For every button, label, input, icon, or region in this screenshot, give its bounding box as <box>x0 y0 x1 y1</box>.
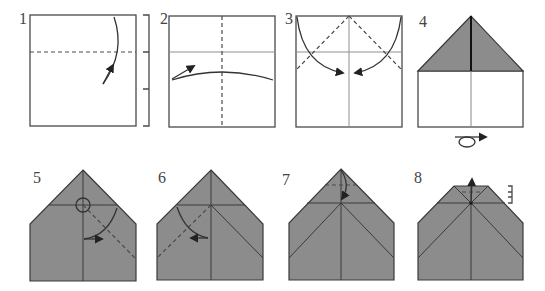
step-2: 2 <box>160 10 275 127</box>
step-4: 4 <box>418 13 523 147</box>
step-1: 1 <box>19 10 149 126</box>
step-number: 7 <box>282 171 290 188</box>
paper-square <box>30 15 136 126</box>
step-number: 6 <box>158 169 166 186</box>
step-5: 5 <box>30 169 136 281</box>
step-number: 3 <box>285 10 293 27</box>
step-number: 4 <box>419 13 427 30</box>
paper-model <box>157 170 263 280</box>
step-3: 3 <box>285 10 402 127</box>
origami-diagram: 1 2 3 4 5 <box>0 0 545 291</box>
step-number: 1 <box>19 10 27 27</box>
turn-over-symbol-icon <box>455 137 486 147</box>
step-6: 6 <box>157 169 263 280</box>
step-number: 5 <box>33 169 41 186</box>
step-7: 7 <box>282 169 394 280</box>
proportion-bracket-icon <box>143 15 149 126</box>
step-number: 2 <box>160 10 168 27</box>
proportion-bracket-icon <box>508 186 512 203</box>
step-8: 8 <box>414 169 523 280</box>
step-number: 8 <box>414 169 422 186</box>
